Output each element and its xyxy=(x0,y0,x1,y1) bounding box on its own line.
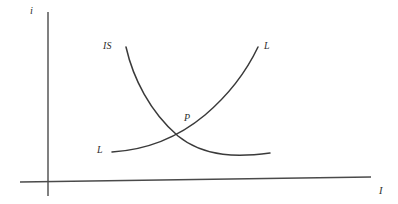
ll-curve-path xyxy=(112,47,258,152)
ll-curve-label-right: L xyxy=(264,41,270,51)
is-curve-path xyxy=(126,47,270,155)
diagram-canvas: i I IS L L P xyxy=(0,0,398,204)
x-axis-line xyxy=(20,177,371,182)
is-curve-label: IS xyxy=(103,41,112,51)
is-ll-diagram-svg xyxy=(0,0,398,204)
ll-curve-label-left: L xyxy=(97,145,103,155)
x-axis-label: I xyxy=(379,186,383,197)
y-axis-label: i xyxy=(30,6,33,17)
equilibrium-point-label: P xyxy=(184,113,190,123)
